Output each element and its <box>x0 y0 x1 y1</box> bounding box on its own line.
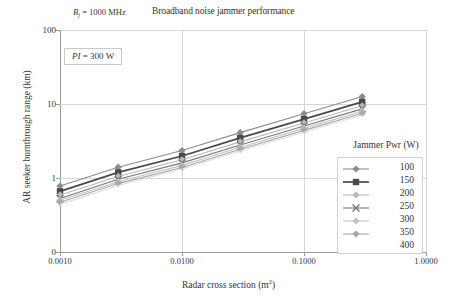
y-tick-label: 10 <box>47 99 56 109</box>
series-line <box>60 102 362 192</box>
square-icon <box>342 174 370 186</box>
pi-symbol: PI <box>72 51 81 61</box>
data-point-marker <box>352 165 359 172</box>
legend-item-250[interactable]: 250 <box>338 199 422 212</box>
x-axis-title: Radar cross section (m2) <box>0 278 457 290</box>
legend-item-label: 300 <box>370 214 416 224</box>
legend-item-label: 350 <box>370 227 416 237</box>
pi-value: = 300 W <box>81 51 115 61</box>
data-point-marker <box>352 217 359 224</box>
chart-title: Broadband noise jammer performance <box>152 6 294 16</box>
x-axis-title-main: Radar cross section (m <box>182 280 269 290</box>
x-axis-title-tail: ) <box>272 280 275 290</box>
none-icon <box>342 239 370 251</box>
bj-value: = 1000 MHz <box>80 7 126 17</box>
y-tick-label: 100 <box>43 25 57 35</box>
legend-item-300[interactable]: 300 <box>338 212 422 225</box>
legend: 100150200250300350400 <box>337 157 423 254</box>
bandwidth-annotation: Bj = 1000 MHz <box>73 7 126 18</box>
series-line <box>60 97 362 186</box>
data-point-marker <box>352 191 359 198</box>
cross-icon <box>342 200 370 212</box>
legend-item-100[interactable]: 100 <box>338 160 422 173</box>
legend-item-label: 400 <box>370 240 416 250</box>
diamond-light-icon <box>342 213 370 225</box>
x-tick-label: 1.0000 <box>414 256 437 266</box>
x-tick-label: 0.1000 <box>292 256 315 266</box>
legend-item-label: 100 <box>370 162 416 172</box>
series-line <box>60 106 362 195</box>
series-line <box>60 109 362 199</box>
legend-item-350[interactable]: 350 <box>338 225 422 238</box>
legend-item-150[interactable]: 150 <box>338 173 422 186</box>
legend-item-400[interactable]: 400 <box>338 238 422 251</box>
x-tick-label: 0.0010 <box>48 256 71 266</box>
x-tick-label: 0.0100 <box>170 256 193 266</box>
power-annotation-box: PI = 300 W <box>64 48 122 65</box>
legend-item-label: 250 <box>370 201 416 211</box>
legend-item-label: 200 <box>370 188 416 198</box>
diamond-icon <box>342 161 370 173</box>
series-line <box>60 115 362 204</box>
data-point-marker <box>353 178 359 184</box>
legend-item-label: 150 <box>370 175 416 185</box>
legend-title: Jammer Pwr (W) <box>337 140 435 150</box>
series-line <box>60 113 362 202</box>
diamond-mid-icon <box>342 226 370 238</box>
legend-item-200[interactable]: 200 <box>338 186 422 199</box>
diamond-light-icon <box>342 187 370 199</box>
y-tick-label: 1 <box>52 173 57 183</box>
chart-figure: Bj = 1000 MHz Broadband noise jammer per… <box>0 0 457 298</box>
y-axis-title: AR seeker burnthrough range (km) <box>22 32 32 242</box>
series-line <box>60 111 362 200</box>
data-point-marker <box>352 230 359 237</box>
